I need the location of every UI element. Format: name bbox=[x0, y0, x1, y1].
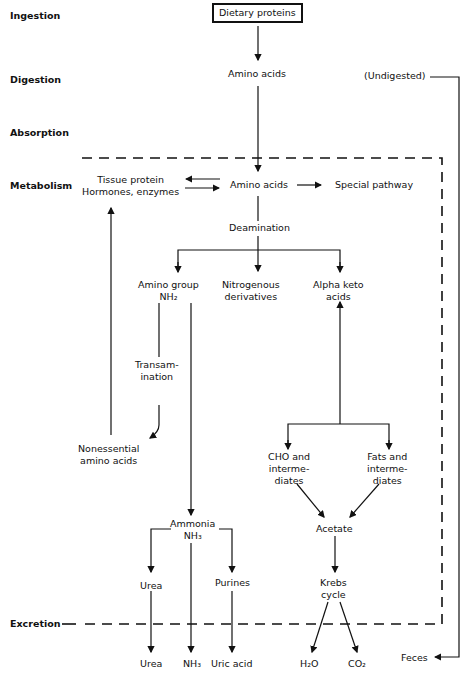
node-amino-acids-digestion: Amino acids bbox=[228, 68, 286, 80]
node-nitrogenous-line1: Nitrogenous bbox=[222, 279, 280, 291]
node-ammonia-line2: NH₃ bbox=[170, 530, 215, 542]
node-ammonia-line1: Ammonia bbox=[170, 518, 215, 530]
node-co2: CO₂ bbox=[348, 658, 366, 670]
node-undigested: (Undigested) bbox=[364, 70, 425, 82]
node-transamination-line1: Transam- bbox=[135, 359, 179, 371]
node-amino-group-line1: Amino group bbox=[138, 279, 199, 291]
node-nitrogenous-line2: derivatives bbox=[222, 291, 280, 303]
node-ammonia: Ammonia NH₃ bbox=[170, 518, 215, 542]
node-krebs-line1: Krebs bbox=[320, 577, 347, 589]
node-nitrogenous-derivatives: Nitrogenous derivatives bbox=[222, 279, 280, 303]
node-feces: Feces bbox=[401, 652, 428, 664]
stage-absorption: Absorption bbox=[10, 127, 69, 138]
stage-metabolism: Metabolism bbox=[10, 180, 72, 191]
node-uric-acid: Uric acid bbox=[211, 658, 252, 670]
node-krebs-line2: cycle bbox=[320, 589, 347, 601]
node-cho-intermediates: CHO and interme- diates bbox=[268, 451, 310, 487]
node-deamination: Deamination bbox=[229, 222, 290, 234]
stage-ingestion: Ingestion bbox=[10, 10, 60, 21]
node-transamination-line2: ination bbox=[135, 371, 179, 383]
node-fats-intermediates: Fats and interme- diates bbox=[367, 451, 408, 487]
node-fats-line1: Fats and bbox=[367, 451, 408, 463]
node-amino-acids-pool: Amino acids bbox=[230, 179, 288, 191]
node-special-pathway: Special pathway bbox=[335, 179, 413, 191]
node-transamination: Transam- ination bbox=[135, 359, 179, 383]
node-cho-line3: diates bbox=[268, 475, 310, 487]
node-krebs-cycle: Krebs cycle bbox=[320, 577, 347, 601]
node-purines: Purines bbox=[215, 577, 250, 589]
node-alpha-keto-acids: Alpha keto acids bbox=[313, 279, 364, 303]
stage-excretion: Excretion bbox=[10, 618, 60, 629]
node-urea-out: Urea bbox=[140, 658, 162, 670]
node-nh3-out: NH₃ bbox=[183, 658, 201, 670]
node-alpha-keto-line2: acids bbox=[313, 291, 364, 303]
node-urea-mid: Urea bbox=[140, 580, 162, 592]
node-h2o: H₂O bbox=[300, 658, 318, 670]
node-tissue-protein: Tissue protein Hormones, enzymes bbox=[82, 174, 179, 198]
node-nonessential-line1: Nonessential bbox=[78, 443, 139, 455]
node-tissue-protein-line2: Hormones, enzymes bbox=[82, 186, 179, 198]
node-acetate: Acetate bbox=[316, 523, 353, 535]
node-cho-line1: CHO and bbox=[268, 451, 310, 463]
node-fats-line3: diates bbox=[367, 475, 408, 487]
node-amino-group: Amino group NH₂ bbox=[138, 279, 199, 303]
node-amino-group-line2: NH₂ bbox=[138, 291, 199, 303]
node-nonessential-amino-acids: Nonessential amino acids bbox=[78, 443, 139, 467]
node-dietary-proteins: Dietary proteins bbox=[212, 3, 303, 23]
node-cho-line2: interme- bbox=[268, 463, 310, 475]
stage-digestion: Digestion bbox=[10, 74, 61, 85]
node-alpha-keto-line1: Alpha keto bbox=[313, 279, 364, 291]
node-tissue-protein-line1: Tissue protein bbox=[82, 174, 179, 186]
node-nonessential-line2: amino acids bbox=[78, 455, 139, 467]
node-fats-line2: interme- bbox=[367, 463, 408, 475]
